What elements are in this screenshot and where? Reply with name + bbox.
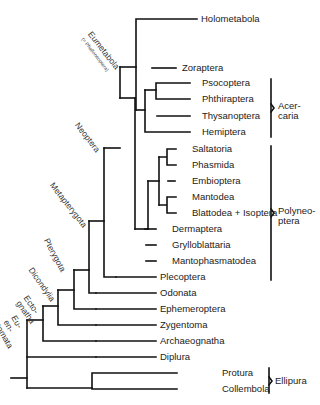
polyneoptera-line2: ptera — [278, 215, 300, 226]
taxon-phthiraptera: Phthiraptera — [202, 93, 254, 104]
clade-label-ellipura: Ellipura — [275, 376, 307, 386]
taxon-collembola: Collembola — [222, 383, 270, 394]
taxon-diplura: Diplura — [160, 351, 190, 362]
taxon-ephemeroptera: Ephemeroptera — [160, 303, 225, 314]
ellipura-node — [92, 373, 177, 389]
clade-label-polyneoptera: Polyneo- ptera — [278, 206, 316, 226]
taxon-odonata: Odonata — [160, 287, 196, 298]
clade-label-acercaria: Acer- caria — [278, 101, 301, 121]
taxon-phasmida: Phasmida — [192, 159, 234, 170]
taxon-archaeognatha: Archaeognatha — [160, 335, 224, 346]
taxon-protura: Protura — [222, 367, 253, 378]
taxon-zygentoma: Zygentoma — [160, 319, 208, 330]
taxon-zoraptera: Zoraptera — [182, 62, 223, 73]
ectognatha-node — [43, 306, 96, 341]
dicondylia-node — [58, 290, 96, 325]
taxon-blattodea-isoptera: Blattodea + Isoptera — [192, 207, 277, 218]
pterygota-node — [74, 270, 96, 309]
taxon-plecoptera: Plecoptera — [160, 271, 205, 282]
taxon-mantophasmatodea: Mantophasmatodea — [172, 255, 256, 266]
taxon-grylloblattaria: Grylloblattaria — [172, 239, 231, 250]
taxon-thysanoptera: Thysanoptera — [202, 110, 260, 121]
taxon-psocoptera: Psocoptera — [202, 77, 250, 88]
taxon-dermaptera: Dermaptera — [172, 223, 222, 234]
taxon-holometabola: Holometabola — [201, 13, 260, 24]
neoptera-node — [104, 148, 116, 277]
taxon-hemiptera: Hemiptera — [202, 126, 246, 137]
taxon-saltatoria: Saltatoria — [192, 143, 232, 154]
taxon-embioptera: Embioptera — [192, 175, 241, 186]
paraneoptera-node — [145, 90, 190, 132]
metapterygota-node — [89, 221, 96, 293]
ellipura-line1: Ellipura — [275, 375, 307, 386]
acercaria-line2: caria — [278, 110, 299, 121]
taxon-mantodea: Mantodea — [192, 191, 234, 202]
